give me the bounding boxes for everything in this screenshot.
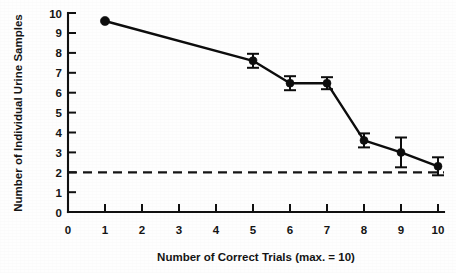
data-point-x7 [323,79,331,87]
y-tick-label-8: 8 [56,47,63,59]
y-axis-ticks [68,13,76,192]
x-tick-label-2: 2 [139,224,145,236]
y-tick-label-3: 3 [56,147,62,159]
x-tick-label-0: 0 [65,224,71,236]
x-tick-label-1: 1 [102,224,109,236]
data-point-x1 [100,16,109,25]
y-tick-label-5: 5 [56,107,63,119]
y-tick-label-10: 10 [49,8,62,20]
x-axis-ticks [105,204,438,212]
y-tick-label-7: 7 [56,67,62,79]
data-point-x9 [397,148,405,156]
series-markers [100,16,442,170]
x-tick-label-4: 4 [213,224,220,236]
y-tick-label-0: 0 [56,207,62,219]
x-tick-label-8: 8 [361,224,368,236]
x-tick-label-10: 10 [432,224,445,236]
y-tick-label-1: 1 [56,187,63,199]
x-axis-title: Number of Correct Trials (max. = 10) [157,251,355,263]
y-axis-tick-labels: 10 9 8 7 6 5 4 3 2 1 0 [49,8,62,219]
data-point-x8 [360,136,368,144]
data-point-x5 [249,57,257,65]
x-tick-label-5: 5 [250,224,257,236]
series-line [105,21,438,166]
x-tick-label-9: 9 [398,224,404,236]
x-tick-label-6: 6 [287,224,293,236]
chart-figure: 10 9 8 7 6 5 4 3 2 1 0 0 1 2 3 4 5 6 7 8… [0,0,456,273]
x-tick-label-3: 3 [176,224,182,236]
y-tick-label-4: 4 [56,127,63,139]
x-tick-label-7: 7 [324,224,330,236]
x-axis-tick-labels: 0 1 2 3 4 5 6 7 8 9 10 [65,224,445,236]
y-axis-title: Number of Individual Urine Samples [12,14,24,211]
data-point-x6 [286,79,294,87]
data-point-x10 [434,162,442,170]
y-tick-label-2: 2 [56,167,62,179]
y-tick-label-6: 6 [56,87,62,99]
chart-plot-area: 10 9 8 7 6 5 4 3 2 1 0 0 1 2 3 4 5 6 7 8… [0,0,456,273]
y-tick-label-9: 9 [56,27,62,39]
